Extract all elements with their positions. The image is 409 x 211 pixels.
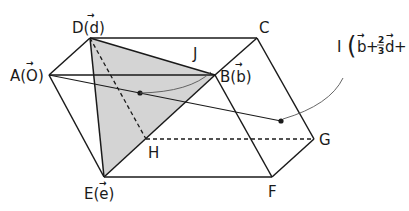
- svg-text:→: →: [357, 30, 365, 40]
- label-d: D(d): [72, 19, 105, 37]
- parallelepiped-diagram: D(d) → A(O) → B(b) → C E(e) → F G H J I …: [0, 0, 409, 211]
- svg-text:2: 2: [378, 35, 384, 45]
- label-h: H: [148, 144, 159, 162]
- label-g: G: [319, 131, 331, 149]
- label-i-expression: I ( b → + 2 3 d → +: [337, 30, 407, 60]
- arrow-a: →: [26, 58, 34, 68]
- svg-text:→: →: [386, 30, 394, 40]
- point-i: [278, 118, 283, 123]
- label-c: C: [259, 19, 269, 37]
- arrow-b: →: [235, 59, 243, 69]
- svg-text:I: I: [337, 38, 341, 56]
- label-b: B(b): [220, 68, 252, 86]
- label-j: J: [192, 45, 197, 63]
- edge-bf: [215, 75, 272, 177]
- svg-text:+: +: [366, 38, 379, 56]
- svg-text:+: +: [394, 38, 407, 56]
- svg-text:(: (: [347, 32, 356, 60]
- edge-cg: [257, 38, 314, 139]
- arrow-e: →: [99, 178, 107, 188]
- edge-ad: [49, 38, 90, 75]
- label-a: A(O): [10, 67, 44, 85]
- label-f: F: [268, 183, 277, 201]
- svg-text:3: 3: [378, 46, 384, 56]
- arrow-d: →: [87, 10, 95, 20]
- edge-fg: [272, 139, 314, 177]
